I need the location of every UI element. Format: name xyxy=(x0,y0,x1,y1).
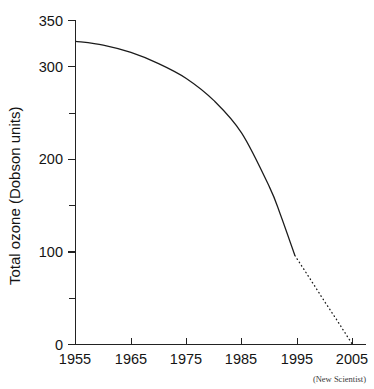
ozone-curve-solid xyxy=(76,41,295,255)
source-attribution: (New Scientist) xyxy=(313,374,366,384)
x-tick-label-2005: 2005 xyxy=(336,351,368,367)
x-tick-label-1975: 1975 xyxy=(170,351,202,367)
y-tick-label-200: 200 xyxy=(39,151,63,167)
ozone-curve-projected xyxy=(295,255,353,344)
x-tick-label-1985: 1985 xyxy=(225,351,257,367)
x-tick-label-1995: 1995 xyxy=(281,351,313,367)
ozone-depletion-line-chart: Total ozone (Dobson units) 350 300 200 1… xyxy=(0,0,374,389)
x-tick-label-1965: 1965 xyxy=(115,351,147,367)
x-tick-label-1955: 1955 xyxy=(59,351,91,367)
y-tick-label-300: 300 xyxy=(39,59,63,75)
y-tick-label-350: 350 xyxy=(39,13,63,29)
chart-page: Total ozone (Dobson units) 350 300 200 1… xyxy=(0,0,374,389)
y-tick-label-100: 100 xyxy=(39,244,63,260)
y-axis-title: Total ozone (Dobson units) xyxy=(6,107,23,285)
